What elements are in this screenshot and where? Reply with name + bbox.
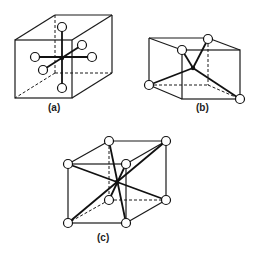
coordination-diagram: [0, 0, 256, 254]
atom-front: [39, 66, 48, 75]
panel-b-label: (b): [196, 102, 209, 113]
atom-top: [58, 23, 67, 32]
atom-left: [31, 53, 40, 62]
atom-bottom: [58, 84, 67, 93]
atom-right: [88, 53, 97, 62]
atom-back: [78, 41, 87, 50]
panel-a-label: (a): [48, 102, 60, 113]
atom-center: [60, 56, 64, 60]
panel-c-label: (c): [97, 232, 109, 243]
